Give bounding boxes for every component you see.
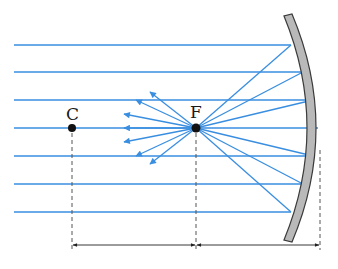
concave-mirror-diagram: C F bbox=[0, 0, 338, 269]
diverging-arrow-3 bbox=[124, 114, 196, 128]
focus-label: F bbox=[190, 102, 202, 122]
reflected-ray-5 bbox=[196, 128, 313, 156]
focus-point bbox=[192, 124, 201, 133]
reflected-ray-1 bbox=[196, 45, 291, 128]
diverging-arrow-5 bbox=[124, 128, 196, 142]
guide-lines bbox=[72, 133, 320, 250]
reflected-ray-3 bbox=[196, 100, 313, 128]
center-point bbox=[68, 124, 76, 132]
center-label: C bbox=[66, 104, 79, 124]
diverging-arrows bbox=[124, 92, 196, 164]
